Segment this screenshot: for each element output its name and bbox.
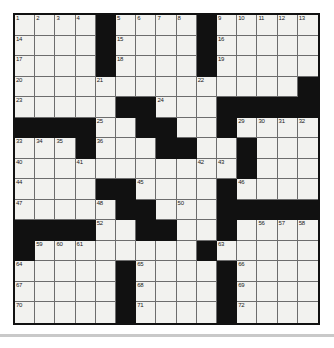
crossword-cell[interactable] [278, 261, 298, 282]
crossword-cell[interactable]: 33 [15, 138, 35, 159]
crossword-cell[interactable] [96, 159, 116, 180]
crossword-cell[interactable] [257, 302, 277, 323]
crossword-cell[interactable] [177, 159, 197, 180]
crossword-cell[interactable] [55, 302, 75, 323]
crossword-cell[interactable] [298, 302, 318, 323]
crossword-cell[interactable]: 66 [237, 261, 257, 282]
crossword-cell[interactable] [76, 97, 96, 118]
crossword-cell[interactable] [237, 56, 257, 77]
crossword-cell[interactable]: 71 [136, 302, 156, 323]
crossword-cell[interactable] [96, 302, 116, 323]
crossword-cell[interactable]: 20 [15, 77, 35, 98]
crossword-cell[interactable] [55, 261, 75, 282]
crossword-cell[interactable] [257, 159, 277, 180]
crossword-cell[interactable] [156, 56, 176, 77]
crossword-cell[interactable] [76, 77, 96, 98]
crossword-cell[interactable] [298, 282, 318, 303]
crossword-cell[interactable] [136, 77, 156, 98]
crossword-cell[interactable] [278, 179, 298, 200]
crossword-cell[interactable] [298, 159, 318, 180]
crossword-cell[interactable]: 4 [76, 15, 96, 36]
crossword-cell[interactable] [96, 241, 116, 262]
crossword-cell[interactable] [35, 159, 55, 180]
crossword-cell[interactable] [136, 159, 156, 180]
crossword-cell[interactable] [278, 36, 298, 57]
crossword-cell[interactable] [136, 241, 156, 262]
crossword-cell[interactable] [177, 56, 197, 77]
crossword-cell[interactable]: 2 [35, 15, 55, 36]
crossword-cell[interactable] [197, 220, 217, 241]
crossword-cell[interactable] [55, 282, 75, 303]
crossword-cell[interactable]: 47 [15, 200, 35, 221]
crossword-cell[interactable] [177, 261, 197, 282]
crossword-cell[interactable]: 67 [15, 282, 35, 303]
crossword-cell[interactable] [197, 118, 217, 139]
crossword-cell[interactable]: 45 [136, 179, 156, 200]
crossword-cell[interactable]: 17 [15, 56, 35, 77]
crossword-cell[interactable] [177, 220, 197, 241]
crossword-cell[interactable] [76, 261, 96, 282]
crossword-cell[interactable]: 52 [96, 220, 116, 241]
crossword-cell[interactable] [156, 261, 176, 282]
crossword-cell[interactable] [76, 179, 96, 200]
crossword-cell[interactable]: 64 [15, 261, 35, 282]
crossword-cell[interactable] [278, 159, 298, 180]
crossword-cell[interactable] [35, 179, 55, 200]
crossword-cell[interactable] [116, 77, 136, 98]
crossword-cell[interactable]: 18 [116, 56, 136, 77]
crossword-cell[interactable] [96, 97, 116, 118]
crossword-cell[interactable]: 72 [237, 302, 257, 323]
crossword-cell[interactable]: 5 [116, 15, 136, 36]
crossword-cell[interactable] [177, 241, 197, 262]
crossword-cell[interactable]: 70 [15, 302, 35, 323]
crossword-cell[interactable]: 42 [197, 159, 217, 180]
crossword-cell[interactable]: 57 [278, 220, 298, 241]
crossword-cell[interactable]: 59 [35, 241, 55, 262]
crossword-cell[interactable]: 9 [217, 15, 237, 36]
crossword-cell[interactable] [55, 97, 75, 118]
crossword-cell[interactable] [55, 56, 75, 77]
crossword-cell[interactable] [257, 77, 277, 98]
crossword-cell[interactable] [237, 220, 257, 241]
crossword-cell[interactable]: 68 [136, 282, 156, 303]
crossword-cell[interactable]: 8 [177, 15, 197, 36]
crossword-cell[interactable] [35, 36, 55, 57]
crossword-cell[interactable]: 13 [298, 15, 318, 36]
crossword-cell[interactable]: 34 [35, 138, 55, 159]
crossword-cell[interactable] [257, 261, 277, 282]
crossword-cell[interactable] [257, 36, 277, 57]
crossword-cell[interactable] [55, 77, 75, 98]
crossword-cell[interactable] [197, 179, 217, 200]
crossword-cell[interactable] [35, 200, 55, 221]
crossword-cell[interactable]: 22 [197, 77, 217, 98]
crossword-cell[interactable]: 41 [76, 159, 96, 180]
crossword-cell[interactable] [237, 77, 257, 98]
crossword-cell[interactable] [278, 302, 298, 323]
crossword-cell[interactable]: 3 [55, 15, 75, 36]
crossword-cell[interactable] [156, 36, 176, 57]
crossword-cell[interactable] [76, 282, 96, 303]
crossword-cell[interactable] [177, 118, 197, 139]
crossword-cell[interactable]: 11 [257, 15, 277, 36]
crossword-cell[interactable] [156, 77, 176, 98]
crossword-cell[interactable]: 40 [15, 159, 35, 180]
crossword-cell[interactable] [257, 138, 277, 159]
crossword-cell[interactable] [177, 97, 197, 118]
crossword-cell[interactable] [55, 159, 75, 180]
crossword-cell[interactable] [298, 138, 318, 159]
crossword-cell[interactable] [298, 179, 318, 200]
crossword-cell[interactable] [298, 261, 318, 282]
crossword-cell[interactable]: 46 [237, 179, 257, 200]
crossword-cell[interactable]: 50 [177, 200, 197, 221]
crossword-cell[interactable] [217, 138, 237, 159]
crossword-cell[interactable]: 19 [217, 56, 237, 77]
crossword-cell[interactable]: 69 [237, 282, 257, 303]
crossword-cell[interactable] [136, 56, 156, 77]
crossword-cell[interactable]: 65 [136, 261, 156, 282]
crossword-cell[interactable] [298, 36, 318, 57]
crossword-cell[interactable] [35, 77, 55, 98]
crossword-cell[interactable] [35, 302, 55, 323]
crossword-cell[interactable]: 29 [237, 118, 257, 139]
crossword-cell[interactable] [76, 36, 96, 57]
crossword-cell[interactable]: 58 [298, 220, 318, 241]
